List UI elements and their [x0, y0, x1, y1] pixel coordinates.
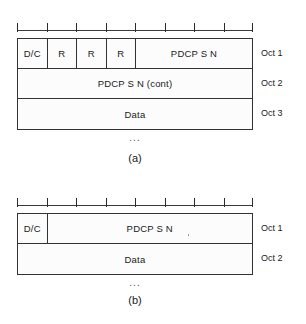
field-reserved: R [107, 39, 137, 68]
figure-caption-a: (a) [17, 152, 253, 164]
figure-caption-b: (b) [17, 294, 253, 306]
octet-label: Oct 2 [261, 68, 306, 98]
pdu-row: D/C R R R PDCP S N [18, 39, 252, 69]
octet-label: Oct 1 [261, 38, 306, 68]
ruler-tick [135, 23, 136, 32]
octet-labels-b: Oct 1 Oct 2 [261, 213, 306, 273]
field-data: Data [18, 99, 252, 129]
pdu-row: Data [18, 244, 252, 274]
bit-ruler-a [17, 20, 253, 34]
ruler-tick [194, 23, 195, 32]
ruler-tick [76, 198, 77, 207]
scan-artifact-dot [188, 234, 190, 236]
pdu-table-a: D/C R R R PDCP S N PDCP S N (cont) Data [17, 38, 253, 130]
ruler-tick [76, 23, 77, 32]
ruler-tick [47, 23, 48, 32]
field-dc: D/C [18, 39, 48, 68]
ruler-tick [224, 198, 225, 207]
field-pdcp-sn: PDCP S N [48, 214, 253, 243]
ruler-tick [135, 198, 136, 207]
field-pdcp-sn-cont: PDCP S N (cont) [18, 69, 252, 98]
ruler-tick [194, 198, 195, 207]
field-pdcp-sn: PDCP S N [136, 39, 252, 68]
pdu-row: D/C PDCP S N [18, 214, 252, 244]
continuation-ellipsis-a: ... [17, 133, 253, 143]
octet-label: Oct 1 [261, 213, 306, 243]
ruler-tick [106, 23, 107, 32]
pdu-row: Data [18, 99, 252, 129]
ruler-tick [47, 198, 48, 207]
field-data: Data [18, 244, 252, 274]
octet-label: Oct 3 [261, 98, 306, 128]
ruler-tick [165, 23, 166, 32]
pdcp-pdu-figure-a: D/C R R R PDCP S N PDCP S N (cont) Data … [0, 0, 306, 176]
ruler-tick [165, 198, 166, 207]
pdu-table-b: D/C PDCP S N Data [17, 213, 253, 275]
ruler-tick [17, 198, 18, 207]
ruler-tick [106, 198, 107, 207]
pdu-row: PDCP S N (cont) [18, 69, 252, 99]
pdcp-pdu-figure-b: D/C PDCP S N Data Oct 1 Oct 2 ... (b) [0, 176, 306, 324]
ruler-tick [17, 23, 18, 32]
bit-ruler-b [17, 195, 253, 209]
field-reserved: R [77, 39, 107, 68]
ruler-tick [252, 23, 253, 32]
octet-labels-a: Oct 1 Oct 2 Oct 3 [261, 38, 306, 128]
field-dc: D/C [18, 214, 48, 243]
ruler-tick [224, 23, 225, 32]
continuation-ellipsis-b: ... [17, 278, 253, 288]
octet-label: Oct 2 [261, 243, 306, 273]
ruler-tick [252, 198, 253, 207]
field-reserved: R [48, 39, 78, 68]
